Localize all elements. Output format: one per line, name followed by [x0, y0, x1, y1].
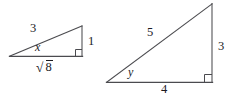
right-triangle-hypotenuse-label: 5: [147, 26, 153, 39]
right-triangle: [107, 4, 213, 83]
right-triangle-right-angle-icon: [205, 75, 213, 83]
left-triangle-hypotenuse: [10, 26, 82, 56]
left-triangle-vertical-leg-label: 1: [88, 35, 94, 48]
left-triangle-angle-label-x: x: [35, 41, 40, 53]
left-triangle-right-angle-icon: [76, 50, 83, 57]
right-triangle-base-leg-label: 4: [161, 83, 167, 96]
right-triangle-hypotenuse: [107, 4, 212, 82]
geometry-figure: 3 1 x √ 8 5 3 y 4: [0, 0, 230, 96]
left-triangle-hypotenuse-label: 3: [30, 22, 36, 35]
square-root-expression: √ 8: [36, 60, 53, 75]
left-triangle-base-leg-label: √ 8: [36, 58, 53, 75]
radical-sign-icon: √: [36, 60, 43, 75]
right-triangle-angle-label-y: y: [128, 66, 133, 78]
radicand-value: 8: [46, 60, 53, 75]
right-triangle-vertical-leg-label: 3: [218, 40, 224, 53]
left-triangle: [10, 26, 83, 57]
